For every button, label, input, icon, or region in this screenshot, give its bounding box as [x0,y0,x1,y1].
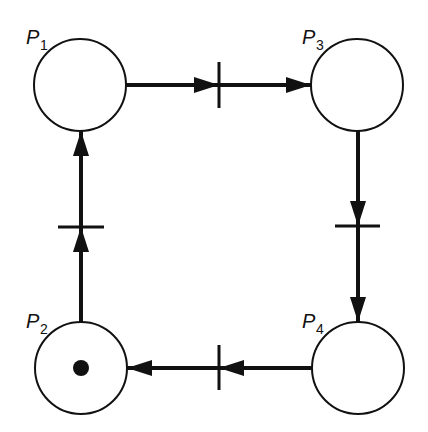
arrowhead-icon [73,227,89,252]
arrowhead-icon [350,201,366,226]
place-p1 [34,39,126,131]
label-p2: P [26,310,40,332]
label-p1-sub: 1 [40,37,48,53]
arrowhead-icon [219,360,244,376]
arrowhead-icon [286,77,311,93]
place-p4 [312,322,404,414]
arrowhead-icon [350,297,366,322]
label-p3: P [302,26,316,48]
arrowhead-icon [194,77,219,93]
label-p4: P [302,310,316,332]
label-p1: P [26,26,40,48]
arrowhead-icon [127,360,152,376]
label-p3-sub: 3 [316,37,324,53]
petri-net-diagram: P 1 P 3 P 2 P 4 [0,0,428,432]
label-p2-sub: 2 [40,321,48,337]
token [73,360,89,376]
place-p3 [311,39,403,131]
arrowhead-icon [73,131,89,156]
label-p4-sub: 4 [316,321,324,337]
